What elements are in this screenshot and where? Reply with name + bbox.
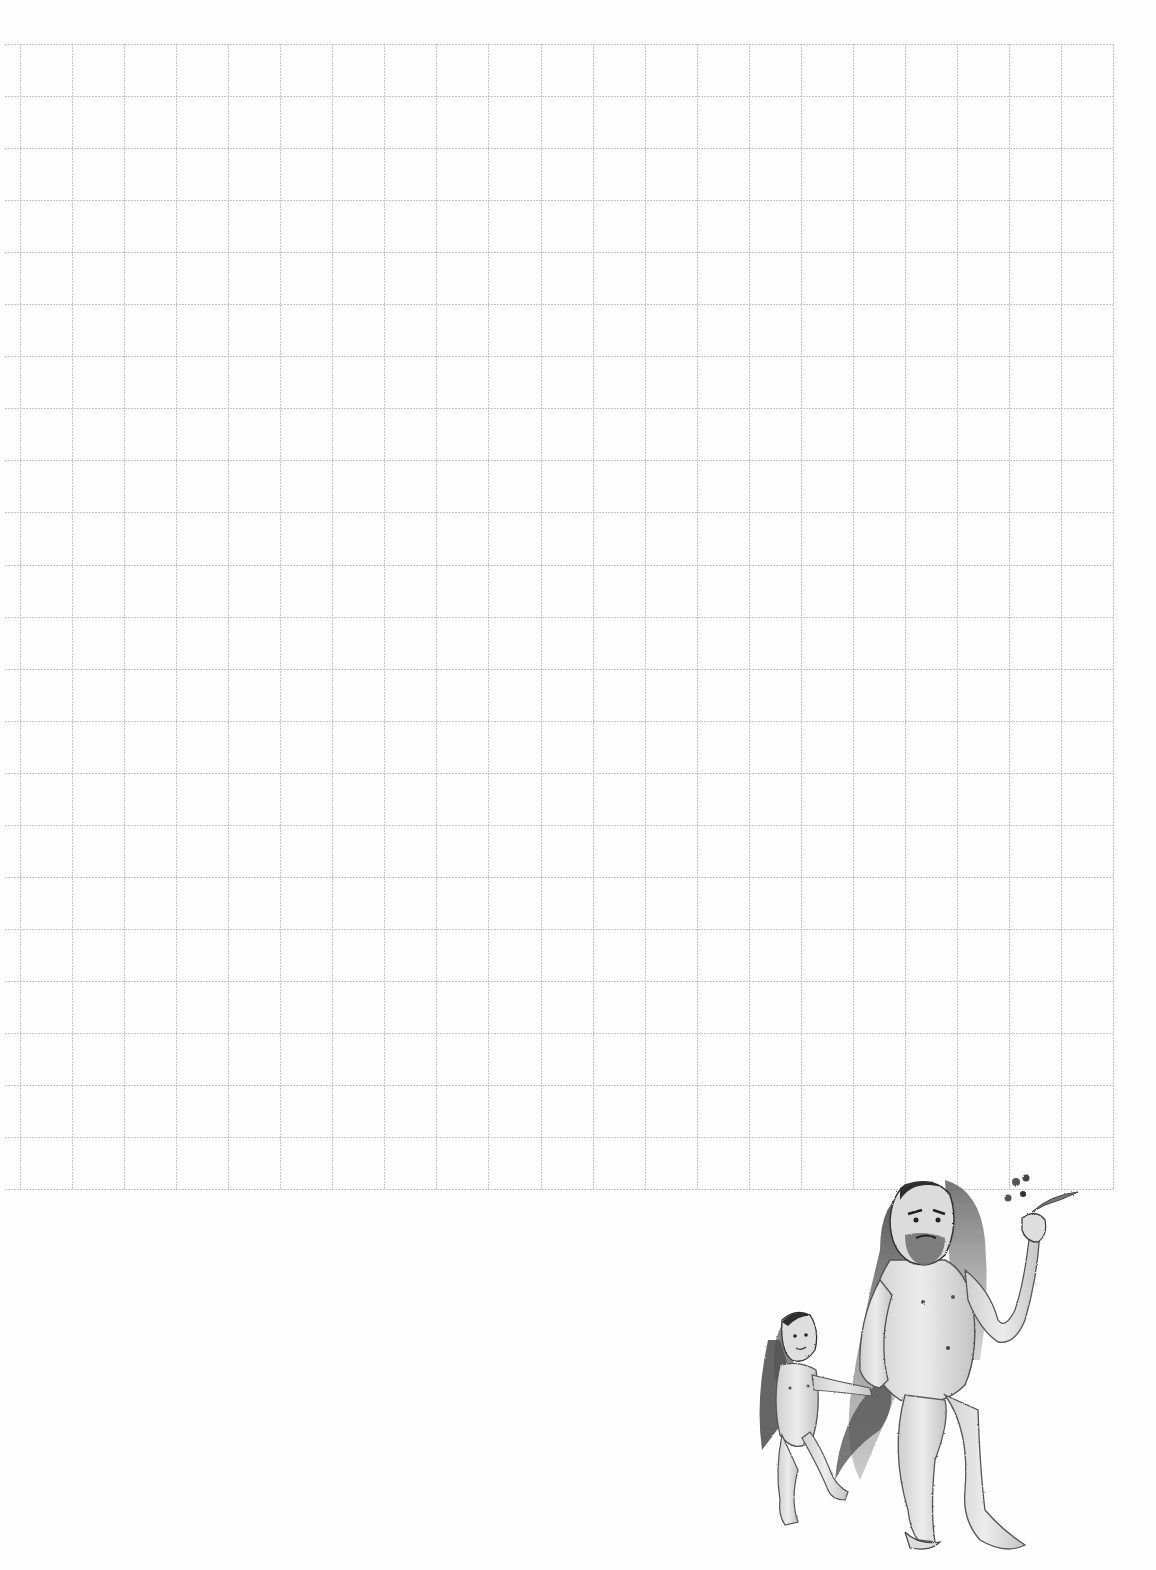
adult-figure (835, 1175, 1078, 1550)
grid-paper-page (0, 0, 1156, 1570)
hairy-figures-illustration (740, 1170, 1140, 1570)
